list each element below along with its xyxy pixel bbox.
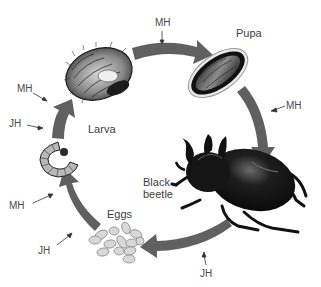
label-larva: Larva <box>88 123 116 135</box>
life-cycle-diagram: Pupa Larva Black beetle Eggs MH MH JH JH… <box>0 0 321 287</box>
hormone-label-jh-bottom: JH <box>200 268 212 279</box>
larva-small-illustration <box>40 142 78 177</box>
arrow-larva-to-pupa <box>132 40 213 64</box>
label-black-beetle-line2: beetle <box>143 188 173 200</box>
larva-large-illustration <box>58 39 139 109</box>
hormone-label-mh-small-larva: MH <box>9 200 25 211</box>
hormone-label-mh-large-larva: MH <box>17 83 33 94</box>
hormone-label-jh-larva: JH <box>9 118 21 129</box>
arrow-beetle-to-eggs <box>140 219 232 258</box>
hormone-label-mh-right: MH <box>286 100 302 111</box>
label-black-beetle-line1: Black <box>143 176 173 188</box>
label-pupa: Pupa <box>236 27 262 39</box>
label-black-beetle: Black beetle <box>143 176 173 200</box>
diagram-graphics <box>0 0 321 287</box>
hormone-label-jh-eggs: JH <box>38 245 50 256</box>
arrow-small-to-large-larva <box>52 99 75 139</box>
arrow-eggs-to-small-larva <box>59 168 101 231</box>
label-eggs: Eggs <box>107 208 132 220</box>
black-beetle-illustration <box>172 134 306 232</box>
hormone-label-mh-top: MH <box>155 17 171 28</box>
